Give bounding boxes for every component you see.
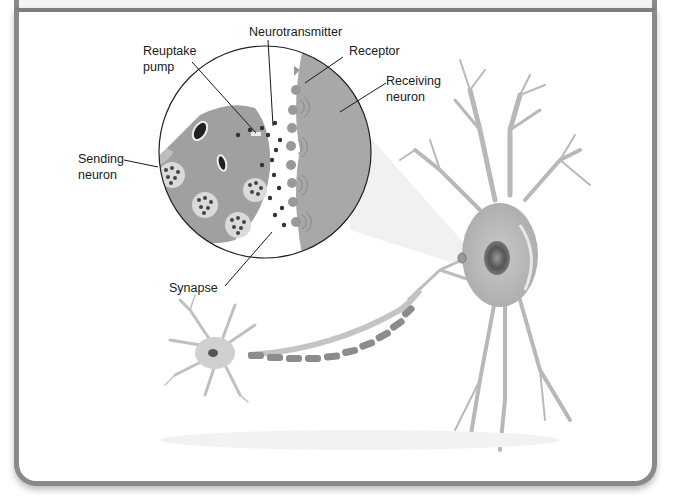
label-receiving-neuron-line1: Receiving (386, 74, 441, 89)
label-receiving-neuron-line2: neuron (386, 90, 425, 105)
label-sending-neuron-line1: Sending (78, 152, 124, 167)
label-receptor: Receptor (349, 44, 400, 59)
synapse-location-marker (458, 253, 466, 263)
receiving-neuron-nucleus (484, 241, 510, 275)
label-reuptake-pump-line2: pump (143, 60, 174, 75)
neuron-synapse-illustration (0, 0, 673, 504)
label-reuptake-pump-line1: Reuptake (143, 44, 197, 59)
label-neurotransmitter: Neurotransmitter (249, 25, 342, 40)
label-sending-neuron-line2: neuron (78, 168, 117, 183)
sending-neuron-nucleus (208, 349, 218, 357)
label-synapse: Synapse (169, 281, 218, 296)
